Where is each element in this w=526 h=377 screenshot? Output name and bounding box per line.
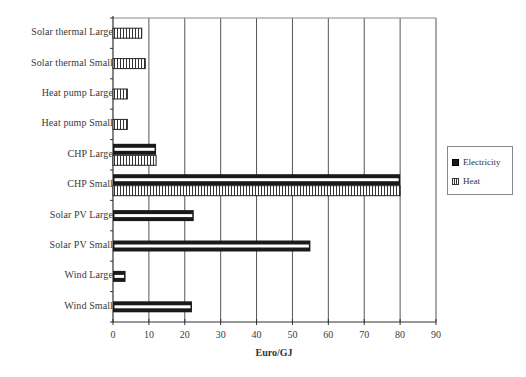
x-tick-label: 70 (359, 329, 369, 340)
category-label: Solar thermal Large (31, 26, 113, 37)
heat-bar (113, 89, 127, 99)
x-tick-label: 50 (287, 329, 297, 340)
heat-bar (113, 28, 142, 38)
legend-label-electricity: Electricity (463, 157, 500, 167)
electricity-bar-highlight (115, 214, 193, 217)
heat-bar (113, 59, 145, 69)
x-tick-label: 60 (323, 329, 333, 340)
bar-chart: Solar thermal LargeSolar thermal SmallHe… (0, 0, 526, 377)
x-tick-label: 0 (111, 329, 116, 340)
heat-bar (113, 119, 127, 129)
category-label: CHP Large (67, 148, 113, 159)
electricity-bar-highlight (115, 275, 125, 278)
legend: Electricity Heat (447, 146, 513, 195)
category-label: Wind Large (65, 269, 113, 280)
x-tick-label: 30 (216, 329, 226, 340)
x-tick-label: 90 (431, 329, 441, 340)
electricity-swatch-icon (452, 159, 459, 166)
category-label: Solar PV Small (50, 239, 113, 250)
x-tick-label: 80 (395, 329, 405, 340)
heat-bar (113, 155, 156, 165)
electricity-bar-highlight (115, 148, 155, 151)
legend-item-electricity: Electricity (452, 157, 500, 167)
electricity-bar-highlight (115, 178, 399, 181)
category-label: Heat pump Small (42, 117, 114, 128)
heat-bar (113, 186, 400, 196)
electricity-bar-highlight (115, 245, 309, 248)
x-tick-label: 10 (144, 329, 154, 340)
electricity-bar-highlight (115, 305, 191, 308)
category-label: Solar thermal Small (31, 57, 113, 68)
x-tick-label: 40 (252, 329, 262, 340)
category-label: Solar PV Large (50, 209, 113, 220)
x-tick-label: 20 (180, 329, 190, 340)
legend-item-heat: Heat (452, 176, 480, 186)
legend-label-heat: Heat (463, 176, 480, 186)
category-label: Heat pump Large (42, 87, 113, 98)
category-label: Wind Small (64, 300, 113, 311)
category-label: CHP Small (67, 178, 113, 189)
x-axis-title: Euro/GJ (255, 347, 292, 358)
heat-swatch-icon (452, 178, 459, 185)
